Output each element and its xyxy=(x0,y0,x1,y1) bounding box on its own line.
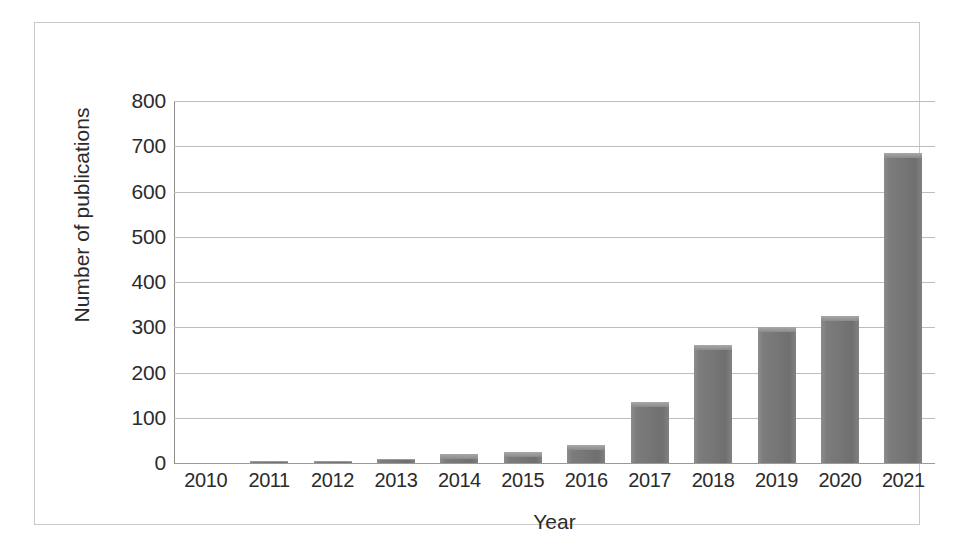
y-tick-label: 400 xyxy=(66,271,166,292)
plot-area xyxy=(174,101,935,463)
bar-slot xyxy=(174,101,237,463)
bar[interactable] xyxy=(250,461,288,463)
y-tick-label: 300 xyxy=(66,316,166,337)
x-tick-label: 2013 xyxy=(364,469,427,499)
x-tick-label: 2016 xyxy=(555,469,618,499)
bar[interactable] xyxy=(884,153,922,463)
x-tick-label: 2015 xyxy=(491,469,554,499)
bar[interactable] xyxy=(694,345,732,463)
x-tick-label: 2021 xyxy=(872,469,935,499)
y-tick-label: 100 xyxy=(66,407,166,428)
bar[interactable] xyxy=(377,459,415,463)
y-axis-tick-labels: 800 700 600 500 400 300 200 100 0 xyxy=(60,101,166,463)
bar[interactable] xyxy=(440,454,478,463)
bar-slot xyxy=(618,101,681,463)
bar-slot xyxy=(745,101,808,463)
bar-slot xyxy=(872,101,935,463)
bar-slot xyxy=(237,101,300,463)
x-tick-label: 2012 xyxy=(301,469,364,499)
x-tick-label: 2018 xyxy=(681,469,744,499)
x-tick-label: 2019 xyxy=(745,469,808,499)
y-tick-label: 800 xyxy=(66,90,166,111)
x-tick-label: 2017 xyxy=(618,469,681,499)
y-tick-label: 600 xyxy=(66,181,166,202)
bar[interactable] xyxy=(504,452,542,463)
y-tick-label: 700 xyxy=(66,135,166,156)
bar[interactable] xyxy=(631,402,669,463)
y-tick-label: 200 xyxy=(66,362,166,383)
x-tick-label: 2011 xyxy=(237,469,300,499)
bar[interactable] xyxy=(821,316,859,463)
bar[interactable] xyxy=(314,461,352,463)
x-tick-label: 2014 xyxy=(428,469,491,499)
bar-slot xyxy=(428,101,491,463)
bar-slot xyxy=(491,101,554,463)
bar-slot xyxy=(681,101,744,463)
bar-slot xyxy=(364,101,427,463)
figure-frame: Number of publications 800 700 600 500 4… xyxy=(34,22,920,525)
bar[interactable] xyxy=(758,327,796,463)
y-tick-label: 500 xyxy=(66,226,166,247)
x-axis-title: Year xyxy=(174,510,935,534)
x-axis-tick-labels: 2010201120122013201420152016201720182019… xyxy=(174,469,935,499)
x-tick-label: 2020 xyxy=(808,469,871,499)
x-tick-label: 2010 xyxy=(174,469,237,499)
y-tick-label: 0 xyxy=(66,452,166,473)
bar-slot xyxy=(808,101,871,463)
axis-baseline xyxy=(174,463,935,464)
figure-canvas: Number of publications 800 700 600 500 4… xyxy=(0,0,955,552)
bar-slot xyxy=(555,101,618,463)
bar-series xyxy=(174,101,935,463)
bar[interactable] xyxy=(567,445,605,463)
bar-slot xyxy=(301,101,364,463)
